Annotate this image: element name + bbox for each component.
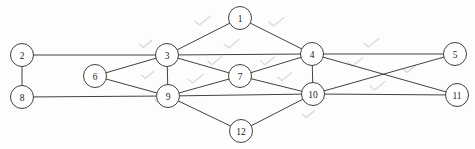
scan-artifact-mark [195, 17, 210, 26]
scan-artifact-mark [278, 73, 292, 81]
graph-edge-8-9 [34, 96, 157, 97]
graph-edge-3-7 [178, 58, 229, 73]
graph-node-5[interactable]: 5 [444, 43, 467, 66]
node-circle-4 [301, 43, 324, 66]
graph-edge-3-6 [106, 58, 156, 73]
graph-node-10[interactable]: 10 [302, 83, 325, 106]
node-circle-11 [446, 84, 469, 107]
node-circle-3 [156, 44, 179, 67]
scan-artifact-mark [224, 40, 239, 49]
graph-edge-7-9 [179, 79, 229, 93]
scan-artifact-mark [208, 57, 222, 65]
scan-artifact-mark [188, 75, 203, 84]
graph-edge-7-10 [251, 79, 302, 92]
scan-artifact-mark [140, 41, 152, 48]
scan-artifact-mark [269, 18, 284, 27]
graph-edge-4-11 [323, 57, 446, 92]
node-circle-2 [11, 44, 34, 67]
scan-artifact-mark [303, 111, 315, 118]
graph-edge-9-12 [178, 101, 230, 126]
graph-edge-1-4 [250, 23, 301, 49]
graph-edge-10-12 [251, 99, 303, 125]
scan-artifact-mark [364, 39, 379, 48]
node-circle-10 [302, 83, 325, 106]
graph-edge-3-4 [179, 54, 301, 55]
graph-edge-10-11 [325, 94, 446, 95]
graph-node-9[interactable]: 9 [157, 85, 180, 108]
graph-edge-4-7 [251, 57, 301, 72]
node-circle-1 [229, 7, 252, 30]
graph-node-8[interactable]: 8 [11, 86, 34, 109]
node-circle-5 [444, 43, 467, 66]
scan-artifact-mark [142, 72, 154, 79]
graph-node-12[interactable]: 12 [230, 120, 253, 143]
graph-edge-6-9 [106, 79, 157, 93]
graph-node-4[interactable]: 4 [301, 43, 324, 66]
node-circle-7 [229, 65, 252, 88]
graph-diagram: 123456789101112 [0, 0, 475, 149]
graph-node-2[interactable]: 2 [11, 44, 34, 67]
node-circle-9 [157, 85, 180, 108]
graph-edge-9-10 [180, 94, 302, 96]
node-circle-12 [230, 120, 253, 143]
graph-node-1[interactable]: 1 [229, 7, 252, 30]
scan-artifact-mark [370, 82, 385, 91]
graph-edge-1-3 [177, 23, 229, 50]
graph-node-6[interactable]: 6 [84, 65, 107, 88]
node-circle-8 [11, 86, 34, 109]
node-circle-6 [84, 65, 107, 88]
node-layer: 123456789101112 [11, 7, 469, 143]
graph-node-3[interactable]: 3 [156, 44, 179, 67]
graph-node-7[interactable]: 7 [229, 65, 252, 88]
graph-node-11[interactable]: 11 [446, 84, 469, 107]
scan-artifact-mark [261, 57, 275, 65]
graph-canvas: 123456789101112 [0, 0, 475, 149]
